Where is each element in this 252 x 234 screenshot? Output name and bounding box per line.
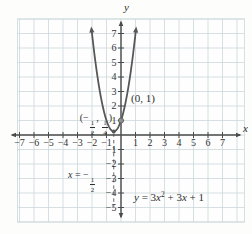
y-tick-label: −3 <box>106 173 117 184</box>
y-intercept-point <box>118 118 123 123</box>
x-tick-label: −7 <box>14 137 25 148</box>
y-tick-label: 5 <box>112 57 117 68</box>
x-tick-label: 2 <box>148 137 153 148</box>
y-tick-label: −1 <box>106 144 117 155</box>
x-tick-label: 7 <box>220 137 225 148</box>
y-tick-label: 6 <box>112 42 117 53</box>
y-tick-label: 7 <box>112 28 117 39</box>
y-axis-title: y <box>124 1 129 13</box>
y-tick-label: 3 <box>112 86 117 97</box>
y-tick-label: 1 <box>112 115 117 126</box>
x-axis-title: x <box>243 122 248 134</box>
x-tick-label: −4 <box>58 137 69 148</box>
quadratic-function-graph: −7−6−5−4−3−2−11234567−5−4−3−2−11234567 y… <box>0 0 252 234</box>
axis-of-symmetry-label: x = −12 <box>68 169 96 194</box>
y-tick-label: −5 <box>106 202 117 213</box>
x-tick-label: 6 <box>206 137 211 148</box>
x-tick-label: 3 <box>162 137 167 148</box>
x-tick-label: −5 <box>43 137 54 148</box>
y-tick-label: −4 <box>106 187 117 198</box>
x-tick-label: 4 <box>177 137 182 148</box>
x-tick-label: 5 <box>191 137 196 148</box>
vertex-point <box>112 129 116 133</box>
equation-label: y = 3x2 + 3x + 1 <box>134 191 204 203</box>
y-tick-label: 4 <box>112 71 117 82</box>
x-tick-label: 1 <box>133 137 138 148</box>
y-tick-label: −2 <box>106 158 117 169</box>
x-tick-label: −6 <box>29 137 40 148</box>
vertex-label: (−12, 14) <box>62 112 112 137</box>
plot-canvas: −7−6−5−4−3−2−11234567−5−4−3−2−11234567 <box>0 0 252 234</box>
y-tick-label: 2 <box>112 100 117 111</box>
x-tick-label: −3 <box>72 137 83 148</box>
x-tick-label: −2 <box>87 137 98 148</box>
y-intercept-label: (0, 1) <box>131 92 155 104</box>
